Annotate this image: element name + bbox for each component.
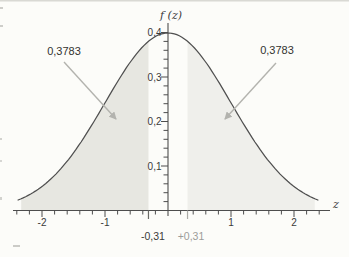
scan-artifact — [0, 160, 2, 162]
pos-boundary-label: +0,31 — [178, 230, 205, 242]
right-area-label: 0,3783 — [260, 44, 294, 56]
right-shaded-region — [188, 41, 315, 210]
x-tick-label: -2 — [38, 217, 47, 228]
scan-artifact — [0, 138, 2, 140]
y-tick-label: 0,3 — [148, 72, 162, 83]
right-annotation-arrow — [225, 63, 276, 119]
neg-boundary-label: -0,31 — [141, 230, 165, 242]
chart-canvas: -2-1120,10,20,30,4 0,3783 0,3783 f (z) z… — [0, 0, 349, 257]
scan-artifact — [0, 7, 3, 9]
left-area-label: 0,3783 — [47, 45, 81, 57]
x-axis-title: z — [332, 198, 339, 211]
x-tick-label: -1 — [101, 217, 110, 228]
normal-distribution-figure: -2-1120,10,20,30,4 0,3783 0,3783 f (z) z… — [0, 0, 349, 257]
scan-artifact — [0, 197, 2, 200]
y-tick-label: 0,2 — [148, 116, 162, 127]
x-tick-label: 1 — [228, 217, 234, 228]
left-shaded-region — [21, 41, 148, 210]
y-axis-title: f (z) — [159, 9, 182, 22]
scan-artifact — [0, 25, 3, 27]
left-annotation-arrow — [64, 62, 116, 119]
x-tick-label: 2 — [291, 217, 297, 228]
scan-artifact — [13, 245, 20, 247]
y-tick-label: 0,1 — [148, 161, 162, 172]
